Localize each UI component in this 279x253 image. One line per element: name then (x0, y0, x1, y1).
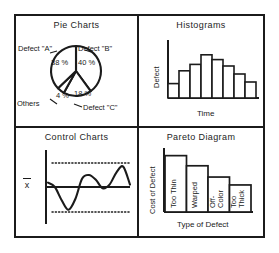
pie-percent-defect-a: 38 % (51, 58, 68, 67)
pareto-diagram-graphic: Too ThinWarpedOff-ColorTooThick (157, 146, 261, 218)
pie-label-defect-b: Defect "B" (78, 44, 112, 53)
pie-percent-others: 4 % (56, 91, 69, 100)
histogram-bar (201, 55, 212, 98)
histogram-bar (190, 64, 201, 98)
control-charts-title: Control Charts (16, 132, 137, 142)
histogram-bar (212, 60, 223, 98)
quadrant-pie-charts: Pie Charts Defect "A" (16, 16, 137, 126)
quadrant-control-charts: Control Charts x (16, 128, 137, 236)
histogram-x-axis-label: Time (197, 109, 214, 118)
histogram-graphic (159, 38, 261, 110)
quadrant-histograms: Histograms Defect Time (139, 16, 263, 126)
histogram-bar (245, 82, 256, 98)
histogram-bar (179, 71, 190, 98)
control-chart-center-line-label: x (23, 178, 31, 189)
control-chart-graphic (40, 146, 134, 228)
histogram-bar (234, 74, 245, 98)
pareto-bar-label: Thick (237, 190, 246, 208)
pareto-x-axis-label: Type of Defect (177, 220, 229, 229)
pareto-bar-label: Warped (190, 182, 199, 208)
pie-label-others: Others (17, 99, 40, 108)
histogram-bar (223, 66, 234, 98)
pie-label-defect-a: Defect "A" (18, 44, 52, 53)
pie-percent-defect-b: 40 % (78, 58, 95, 67)
quadrant-pareto-diagram: Pareto Diagram Too ThinWarpedOff-ColorTo… (139, 128, 263, 236)
pie-percent-defect-c: 18 % (74, 89, 91, 98)
pareto-y-axis-label: Cost of Defect (148, 166, 157, 214)
pareto-bar-label: Color (216, 190, 225, 208)
control-chart-xbar-text: x (23, 181, 31, 189)
figure-frame: Pie Charts Defect "A" (14, 14, 265, 238)
histograms-title: Histograms (139, 20, 263, 30)
histogram-y-axis-label: Defect (152, 66, 161, 88)
control-chart-process-line (48, 166, 130, 210)
pie-label-defect-c: Defect "C" (83, 103, 118, 112)
pie-charts-title: Pie Charts (16, 20, 137, 30)
pareto-diagram-title: Pareto Diagram (139, 132, 263, 142)
pareto-bar-label: Too Thin (169, 179, 178, 208)
histogram-bar (168, 84, 179, 98)
